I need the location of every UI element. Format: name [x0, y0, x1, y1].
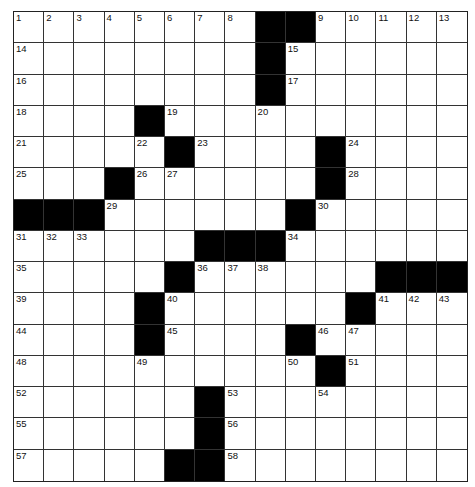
grid-cell[interactable]	[407, 168, 437, 199]
grid-cell[interactable]	[286, 418, 316, 449]
grid-cell[interactable]	[286, 450, 316, 481]
grid-cell[interactable]: 8	[225, 12, 255, 43]
grid-cell[interactable]	[376, 137, 406, 168]
grid-cell[interactable]	[316, 418, 346, 449]
grid-cell[interactable]: 10	[346, 12, 376, 43]
grid-cell[interactable]: 49	[135, 356, 165, 387]
grid-cell[interactable]	[225, 325, 255, 356]
grid-cell[interactable]	[376, 325, 406, 356]
grid-cell[interactable]	[74, 325, 104, 356]
grid-cell[interactable]: 36	[195, 262, 225, 293]
grid-cell[interactable]	[346, 106, 376, 137]
grid-cell[interactable]	[225, 356, 255, 387]
grid-cell[interactable]	[407, 137, 437, 168]
grid-cell[interactable]: 42	[407, 293, 437, 324]
grid-cell[interactable]	[225, 75, 255, 106]
grid-cell[interactable]: 2	[44, 12, 74, 43]
grid-cell[interactable]	[346, 43, 376, 74]
grid-cell[interactable]	[195, 293, 225, 324]
grid-cell[interactable]	[165, 418, 195, 449]
grid-cell[interactable]	[376, 418, 406, 449]
grid-cell[interactable]: 23	[195, 137, 225, 168]
grid-cell[interactable]	[407, 356, 437, 387]
grid-cell[interactable]	[346, 231, 376, 262]
grid-cell[interactable]	[74, 387, 104, 418]
grid-cell[interactable]	[376, 450, 406, 481]
grid-cell[interactable]	[225, 106, 255, 137]
grid-cell[interactable]	[105, 137, 135, 168]
grid-cell[interactable]	[44, 168, 74, 199]
grid-cell[interactable]	[44, 387, 74, 418]
grid-cell[interactable]	[437, 356, 467, 387]
grid-cell[interactable]: 26	[135, 168, 165, 199]
grid-cell[interactable]: 44	[14, 325, 44, 356]
grid-cell[interactable]: 41	[376, 293, 406, 324]
grid-cell[interactable]	[346, 387, 376, 418]
grid-cell[interactable]	[135, 75, 165, 106]
grid-cell[interactable]: 47	[346, 325, 376, 356]
grid-cell[interactable]	[286, 137, 316, 168]
grid-cell[interactable]	[105, 293, 135, 324]
grid-cell[interactable]	[407, 325, 437, 356]
grid-cell[interactable]: 43	[437, 293, 467, 324]
grid-cell[interactable]	[195, 106, 225, 137]
grid-cell[interactable]	[407, 418, 437, 449]
grid-cell[interactable]	[376, 200, 406, 231]
grid-cell[interactable]	[346, 200, 376, 231]
grid-cell[interactable]	[316, 262, 346, 293]
grid-cell[interactable]: 16	[14, 75, 44, 106]
grid-cell[interactable]: 27	[165, 168, 195, 199]
grid-cell[interactable]	[44, 75, 74, 106]
grid-cell[interactable]: 33	[74, 231, 104, 262]
grid-cell[interactable]	[346, 75, 376, 106]
grid-cell[interactable]	[135, 387, 165, 418]
grid-cell[interactable]: 19	[165, 106, 195, 137]
grid-cell[interactable]	[256, 325, 286, 356]
grid-cell[interactable]	[195, 325, 225, 356]
grid-cell[interactable]	[407, 75, 437, 106]
grid-cell[interactable]	[225, 43, 255, 74]
grid-cell[interactable]: 12	[407, 12, 437, 43]
grid-cell[interactable]	[105, 75, 135, 106]
grid-cell[interactable]	[256, 387, 286, 418]
grid-cell[interactable]	[256, 200, 286, 231]
grid-cell[interactable]	[316, 106, 346, 137]
grid-cell[interactable]	[407, 43, 437, 74]
grid-cell[interactable]	[165, 200, 195, 231]
grid-cell[interactable]	[135, 262, 165, 293]
grid-cell[interactable]	[135, 231, 165, 262]
grid-cell[interactable]	[437, 43, 467, 74]
grid-cell[interactable]: 35	[14, 262, 44, 293]
grid-cell[interactable]	[135, 450, 165, 481]
grid-cell[interactable]	[135, 200, 165, 231]
grid-cell[interactable]	[316, 231, 346, 262]
grid-cell[interactable]	[44, 418, 74, 449]
grid-cell[interactable]	[44, 106, 74, 137]
grid-cell[interactable]	[44, 262, 74, 293]
grid-cell[interactable]: 24	[346, 137, 376, 168]
grid-cell[interactable]	[195, 168, 225, 199]
grid-cell[interactable]	[44, 137, 74, 168]
grid-cell[interactable]	[407, 231, 437, 262]
grid-cell[interactable]	[165, 387, 195, 418]
grid-cell[interactable]: 15	[286, 43, 316, 74]
grid-cell[interactable]	[437, 168, 467, 199]
grid-cell[interactable]	[74, 137, 104, 168]
grid-cell[interactable]	[376, 106, 406, 137]
grid-cell[interactable]	[225, 168, 255, 199]
grid-cell[interactable]	[105, 356, 135, 387]
grid-cell[interactable]: 48	[14, 356, 44, 387]
grid-cell[interactable]: 46	[316, 325, 346, 356]
grid-cell[interactable]	[437, 325, 467, 356]
grid-cell[interactable]: 21	[14, 137, 44, 168]
grid-cell[interactable]	[316, 43, 346, 74]
grid-cell[interactable]	[135, 43, 165, 74]
grid-cell[interactable]	[195, 356, 225, 387]
grid-cell[interactable]	[346, 262, 376, 293]
grid-cell[interactable]	[316, 293, 346, 324]
grid-cell[interactable]	[165, 43, 195, 74]
grid-cell[interactable]: 52	[14, 387, 44, 418]
grid-cell[interactable]: 7	[195, 12, 225, 43]
grid-cell[interactable]: 17	[286, 75, 316, 106]
grid-cell[interactable]: 34	[286, 231, 316, 262]
